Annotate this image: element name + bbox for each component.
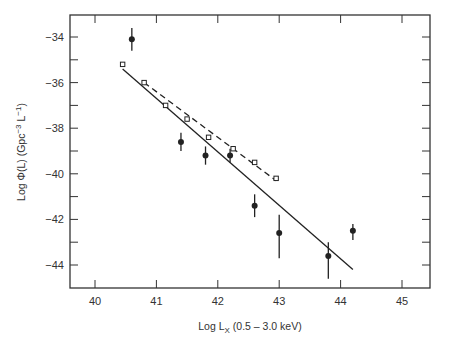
filled-circle-marker	[203, 153, 209, 159]
filled-circle-marker	[129, 36, 135, 42]
open-square-marker	[185, 117, 189, 121]
luminosity-function-chart: 404142434445 −34−36−38−40−42−44 Log LX (…	[0, 0, 451, 343]
filled-circle-marker	[276, 230, 282, 236]
open-square-marker	[163, 103, 167, 107]
y-tick-label: −40	[45, 168, 64, 180]
x-tick-label: 45	[396, 295, 408, 307]
y-axis-label: Log Φ(L) (Gpc−3 L−1)	[14, 103, 27, 201]
open-square-marker	[231, 147, 235, 151]
open-square-marker	[142, 80, 146, 84]
filled-circle-marker	[350, 228, 356, 234]
open-square-marker	[120, 62, 124, 66]
y-tick-label: −38	[45, 122, 64, 134]
filled-circle-marker	[325, 253, 331, 259]
x-axis-ticks: 404142434445	[89, 15, 408, 307]
x-axis-label: Log LX (0.5 – 3.0 keV)	[198, 320, 301, 335]
y-tick-label: −42	[45, 213, 64, 225]
open-square-marker	[252, 160, 256, 164]
y-tick-label: −34	[45, 31, 64, 43]
solid-fit-line	[123, 69, 353, 270]
y-tick-label: −36	[45, 77, 64, 89]
fit-lines	[123, 69, 353, 270]
filled-circle-marker	[178, 139, 184, 145]
y-tick-label: −44	[45, 259, 64, 271]
open-square-marker	[274, 176, 278, 180]
open-square-marker	[206, 135, 210, 139]
dashed-fit-line	[144, 83, 276, 181]
x-tick-label: 40	[89, 295, 101, 307]
filled-circle-marker	[252, 203, 258, 209]
x-tick-label: 41	[150, 295, 162, 307]
y-axis-ticks: −34−36−38−40−42−44	[45, 31, 430, 271]
x-tick-label: 42	[212, 295, 224, 307]
plot-frame	[70, 15, 430, 288]
filled-circle-marker	[227, 153, 233, 159]
x-tick-label: 44	[334, 295, 346, 307]
x-tick-label: 43	[273, 295, 285, 307]
